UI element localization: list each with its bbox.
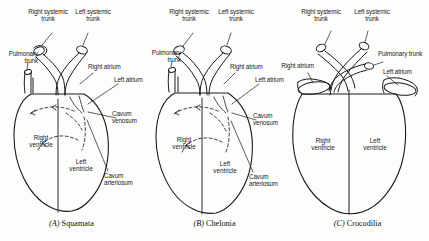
chelonia-diagram xyxy=(143,0,286,241)
leader-left-atrium xyxy=(232,84,259,104)
panel-crocodilia: Right systemic trunk Left systemic trunk… xyxy=(286,0,429,241)
caption-letter: (B) xyxy=(193,219,203,228)
leader-pulmonary xyxy=(27,62,28,69)
right-systemic-trunk-right xyxy=(176,56,200,95)
leader-right-atrium xyxy=(308,73,313,83)
leader-right-systemic xyxy=(325,31,331,44)
caption-name: Squamata xyxy=(62,219,94,228)
pulmonary-trunk-opening xyxy=(364,62,374,70)
left-systemic-trunk-body-right xyxy=(56,53,79,95)
flow-arrowhead-3 xyxy=(186,142,190,148)
leader-cavum-venosum xyxy=(232,113,256,120)
leader-pulmonary xyxy=(171,61,172,67)
leader-right-atrium xyxy=(80,73,93,84)
left-systemic-trunk-right xyxy=(200,53,223,95)
leader-cavum-arteriosum xyxy=(87,120,108,171)
leader-right-systemic xyxy=(183,33,193,46)
reptile-heart-figure: Right systemic trunk Left systemic trunk… xyxy=(0,0,429,241)
flow-arrowhead-3 xyxy=(42,140,46,146)
crocodilia-diagram xyxy=(286,0,429,241)
caption-name: Crocodilia xyxy=(347,219,382,228)
flow-arrow-right xyxy=(226,117,229,152)
atrium-inflow-line-2 xyxy=(223,96,228,112)
squamata-diagram xyxy=(0,0,143,241)
right-systemic-trunk-left xyxy=(183,53,207,95)
flow-arrow-mid xyxy=(210,113,226,131)
caption-letter: (C) xyxy=(334,219,345,228)
caption-squamata: (A) Squamata xyxy=(0,219,143,228)
heart-outline-squamata xyxy=(14,94,108,211)
caption-chelonia: (B) Chelonia xyxy=(143,219,286,228)
left-systemic-trunk-left xyxy=(338,52,367,92)
left-systemic-trunk-body-left xyxy=(65,54,86,95)
panel-squamata: Right systemic trunk Left systemic trunk… xyxy=(0,0,143,241)
heart-outline-chelonia xyxy=(156,93,252,213)
flow-arrow-mid xyxy=(66,113,82,130)
leader-left-atrium xyxy=(88,84,118,104)
leader-cavum-venosum xyxy=(88,112,116,118)
right-systemic-trunk-body-right xyxy=(36,57,58,95)
leader-pulmonary xyxy=(374,62,383,65)
caption-crocodilia: (C) Crocodilia xyxy=(286,219,429,228)
pulmonary-trunk-left xyxy=(24,73,25,93)
left-atrium-opening xyxy=(383,81,416,97)
flow-arrowhead-2 xyxy=(52,105,56,110)
caption-name: Chelonia xyxy=(206,219,236,228)
flow-arrowhead-1 xyxy=(175,110,179,115)
leader-left-systemic xyxy=(83,33,88,45)
leader-cavum-arteriosum xyxy=(231,121,253,172)
leader-left-systemic xyxy=(365,31,368,42)
panel-chelonia: Right systemic trunk Left systemic trunk… xyxy=(143,0,286,241)
atrium-inflow-line-2 xyxy=(79,96,84,112)
leader-right-atrium xyxy=(224,73,235,84)
left-systemic-trunk-left xyxy=(209,54,230,95)
pulmonary-trunk-left xyxy=(168,71,169,92)
leader-right-systemic xyxy=(42,33,52,45)
flow-arrowhead-1 xyxy=(31,110,35,115)
right-systemic-trunk-body-left xyxy=(43,54,65,95)
caption-letter: (A) xyxy=(49,219,59,228)
flow-arrowhead-2 xyxy=(196,105,200,110)
leader-left-systemic xyxy=(227,33,231,45)
flow-arrow-right xyxy=(82,117,85,150)
